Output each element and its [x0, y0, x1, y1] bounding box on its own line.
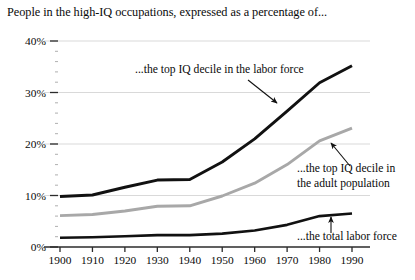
annotation-adult-population: ...the top IQ decile inthe adult populat…	[297, 162, 395, 190]
line-chart-plot-area: 0%10%20%30%40% 1900191019201930194019501…	[0, 0, 415, 280]
annotation-total-labor-force-line-0: ...the total labor force	[297, 230, 397, 243]
data-series-group	[60, 66, 352, 238]
x-tick-label-1920: 1920	[113, 254, 136, 266]
y-tick-label-20pct: 20%	[25, 138, 46, 150]
x-axis-group	[44, 247, 370, 252]
y-tick-label-40pct: 40%	[25, 35, 46, 47]
annotation-adult-population-line-1: the adult population	[297, 177, 390, 190]
x-axis-tick-labels: 1900191019201930194019501960197019801990	[49, 254, 364, 266]
annotation-labor-force-line-0: ...the top IQ decile in the labor force	[135, 63, 304, 76]
annotation-total-labor-force: ...the total labor force	[297, 230, 397, 243]
x-tick-label-1910: 1910	[81, 254, 104, 266]
x-tick-label-1960: 1960	[243, 254, 266, 266]
x-tick-label-1980: 1980	[308, 254, 331, 266]
y-tick-label-30pct: 30%	[25, 87, 46, 99]
annotation-labor-force: ...the top IQ decile in the labor force	[135, 63, 304, 76]
x-tick-label-1990: 1990	[341, 254, 364, 266]
x-tick-label-1950: 1950	[211, 254, 234, 266]
x-tick-label-1900: 1900	[49, 254, 72, 266]
x-tick-label-1940: 1940	[178, 254, 201, 266]
x-tick-label-1930: 1930	[146, 254, 169, 266]
annotation-labor-force-leader-arrow	[248, 80, 277, 103]
annotations-group: ...the top IQ decile in the labor force.…	[135, 63, 397, 243]
x-tick-label-1970: 1970	[276, 254, 299, 266]
chart-figure: People in the high-IQ occupations, expre…	[0, 0, 415, 280]
y-tick-label-10pct: 10%	[25, 190, 46, 202]
y-axis-tick-labels: 0%10%20%30%40%	[25, 35, 46, 253]
annotation-adult-population-line-0: ...the top IQ decile in	[297, 162, 395, 175]
